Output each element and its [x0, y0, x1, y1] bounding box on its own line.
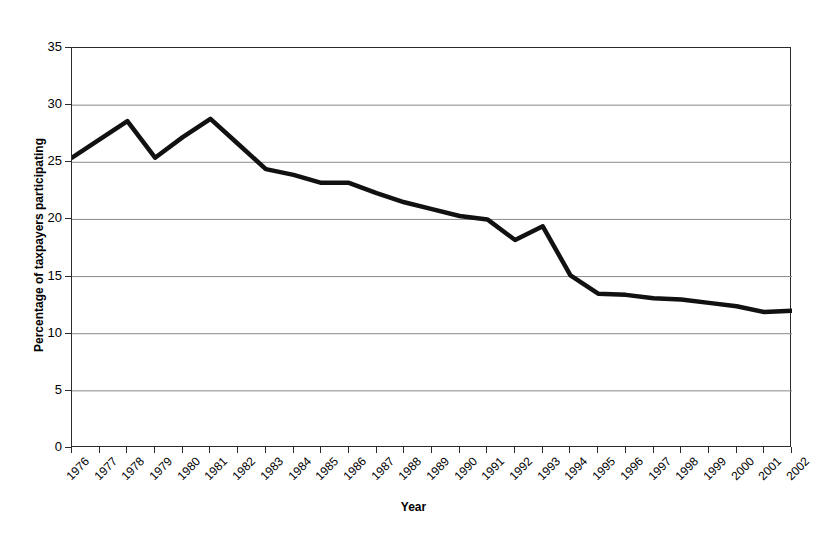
x-axis-tick-labels: 1976197719781979198019811982198319841985…: [71, 455, 811, 505]
chart-canvas: [72, 48, 792, 448]
x-axis-tick-mark: [625, 447, 626, 453]
x-axis-tick-mark: [597, 447, 598, 453]
x-axis-tick-mark: [514, 447, 515, 453]
y-axis-title: Percentage of taxpayers participating: [26, 30, 52, 460]
x-axis-tick-mark: [237, 447, 238, 453]
data-series-line: [72, 119, 792, 312]
x-axis-tick-mark: [99, 447, 100, 453]
x-axis-tick-marks: [71, 447, 791, 454]
x-axis-tick-mark: [154, 447, 155, 453]
gridlines: [72, 105, 792, 391]
x-axis-tick-mark: [653, 447, 654, 453]
x-axis-tick-mark: [403, 447, 404, 453]
x-axis-tick-mark: [431, 447, 432, 453]
x-axis-tick-mark: [459, 447, 460, 453]
x-axis-tick-mark: [680, 447, 681, 453]
plot-area: [71, 47, 791, 447]
x-axis-tick-mark: [348, 447, 349, 453]
x-axis-title: Year: [0, 500, 827, 514]
x-axis-tick-mark: [736, 447, 737, 453]
chart-figure: Percentage of taxpayers participating 05…: [0, 0, 827, 542]
x-axis-tick-mark: [763, 447, 764, 453]
x-axis-tick-mark: [320, 447, 321, 453]
x-axis-tick-mark: [126, 447, 127, 453]
x-axis-tick-mark: [209, 447, 210, 453]
x-axis-tick-mark: [265, 447, 266, 453]
x-axis-tick-mark: [569, 447, 570, 453]
x-axis-tick-mark: [708, 447, 709, 453]
x-axis-tick-mark: [791, 447, 792, 453]
x-axis-tick-mark: [71, 447, 72, 453]
x-axis-tick-mark: [376, 447, 377, 453]
x-axis-tick-mark: [293, 447, 294, 453]
x-axis-tick-mark: [486, 447, 487, 453]
x-axis-tick-mark: [542, 447, 543, 453]
x-axis-tick-mark: [182, 447, 183, 453]
